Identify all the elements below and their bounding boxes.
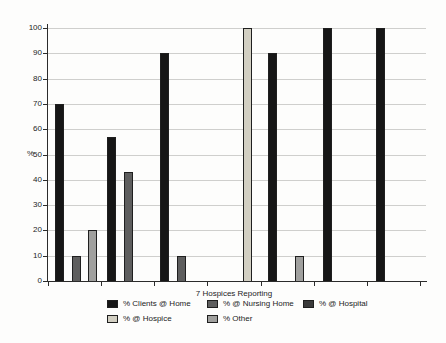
legend-label: % @ Nursing Home (223, 299, 294, 309)
bar--nursing-home (124, 172, 133, 281)
gridline (48, 28, 426, 29)
bar--clients-home (160, 53, 169, 281)
gridline (48, 230, 426, 231)
x-tick-mark (207, 282, 208, 286)
gridline (48, 205, 426, 206)
legend-swatch (107, 315, 118, 323)
x-tick-mark (420, 282, 421, 286)
y-tick-label: 80 (12, 75, 42, 83)
gridline (48, 53, 426, 54)
legend-swatch (303, 300, 314, 308)
x-tick-mark (154, 282, 155, 286)
bar--clients-home (107, 137, 116, 281)
y-tick-label: 100 (12, 24, 42, 32)
x-tick-mark (367, 282, 368, 286)
x-tick-mark (261, 282, 262, 286)
legend-label: % @ Hospital (319, 299, 368, 309)
legend-label: % @ Hospice (123, 314, 172, 324)
y-tick-label: 60 (12, 125, 42, 133)
y-axis-line (47, 24, 48, 282)
legend: % Clients @ Home% @ Hospice% @ Nursing H… (0, 297, 446, 329)
y-tick-label: 10 (12, 252, 42, 260)
gridline (48, 180, 426, 181)
bar--other (295, 256, 304, 281)
bar--nursing-home (72, 256, 81, 281)
x-tick-mark (314, 282, 315, 286)
bar--clients-home (268, 53, 277, 281)
gridline (48, 155, 426, 156)
x-tick-mark (101, 282, 102, 286)
x-tick-mark (48, 282, 49, 286)
chart-figure: % 0102030405060708090100 7 Hospices Repo… (0, 0, 446, 343)
y-tick-label: 40 (12, 176, 42, 184)
legend-swatch (107, 300, 118, 308)
y-tick-label: 90 (12, 49, 42, 57)
y-tick-label: 30 (12, 201, 42, 209)
y-tick-label: 70 (12, 100, 42, 108)
gridline (48, 79, 426, 80)
legend-swatch (207, 300, 218, 308)
y-tick-label: 20 (12, 226, 42, 234)
y-tick-label: 0 (12, 277, 42, 285)
bar--hospice (243, 28, 252, 281)
bar--nursing-home (177, 256, 186, 281)
gridline (48, 129, 426, 130)
bar--clients-home (376, 28, 385, 281)
y-tick-label: 50 (12, 151, 42, 159)
bar--other (88, 230, 97, 281)
legend-label: % Other (223, 314, 252, 324)
plot-area: 0102030405060708090100 (48, 28, 420, 281)
gridline (48, 256, 426, 257)
x-axis-line (47, 281, 427, 282)
bar--clients-home (55, 104, 64, 281)
legend-swatch (207, 315, 218, 323)
bar--clients-home (323, 28, 332, 281)
gridline (48, 104, 426, 105)
legend-label: % Clients @ Home (123, 299, 191, 309)
